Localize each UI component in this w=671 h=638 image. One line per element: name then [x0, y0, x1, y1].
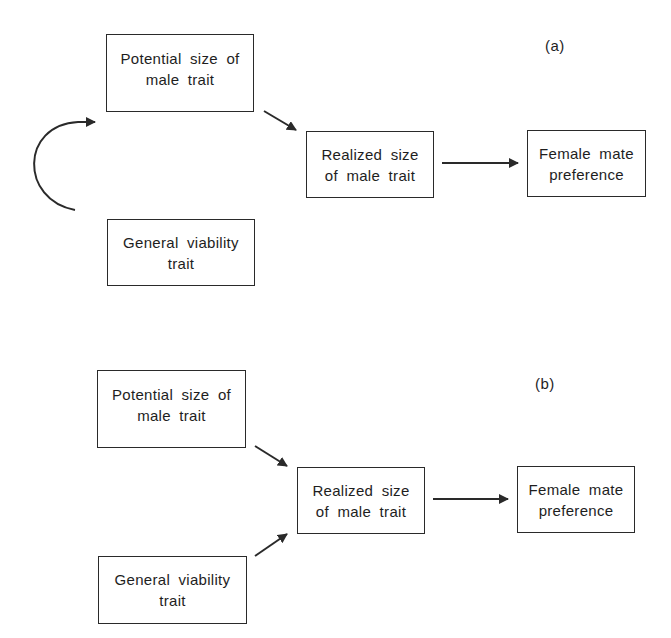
node-b-general-viability: General viability trait: [98, 556, 247, 624]
panel-a-edges: [34, 111, 518, 210]
node-text-line: of male trait: [325, 165, 415, 186]
panel-a-label: (a): [545, 37, 565, 54]
node-a-female-preference: Female mate preference: [527, 130, 646, 197]
edge-b-viability-to-realized: [255, 534, 287, 556]
node-text-line: Realized size: [321, 144, 418, 165]
node-b-realized-size: Realized size of male trait: [297, 467, 425, 534]
node-text-line: trait: [168, 253, 195, 274]
panel-b-label: (b): [535, 375, 555, 392]
node-a-potential-size: Potential size of male trait: [106, 34, 254, 112]
edge-a-viability-to-potential: [34, 122, 95, 210]
node-text-line: General viability: [123, 232, 239, 253]
node-text-line: Female mate: [539, 143, 634, 164]
node-text-line: Realized size: [312, 480, 409, 501]
node-text-line: General viability: [115, 569, 231, 590]
edge-b-potential-to-realized: [255, 446, 287, 466]
node-b-female-preference: Female mate preference: [517, 466, 635, 533]
node-a-realized-size: Realized size of male trait: [306, 131, 434, 198]
node-a-general-viability: General viability trait: [107, 219, 255, 286]
node-text-line: male trait: [146, 69, 215, 90]
node-b-potential-size: Potential size of male trait: [97, 370, 246, 448]
node-text-line: trait: [159, 590, 186, 611]
node-text-line: of male trait: [316, 501, 406, 522]
node-text-line: male trait: [137, 405, 206, 426]
node-text-line: preference: [549, 164, 624, 185]
node-text-line: Female mate: [529, 479, 624, 500]
node-text-line: Potential size of: [112, 384, 231, 405]
diagram-edges: [0, 0, 671, 638]
edge-a-potential-to-realized: [264, 111, 296, 130]
node-text-line: preference: [539, 500, 614, 521]
node-text-line: Potential size of: [121, 48, 240, 69]
